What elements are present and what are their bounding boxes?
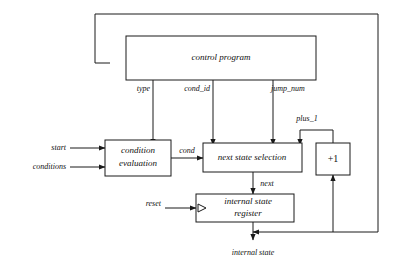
- label-start: start: [51, 143, 66, 152]
- diagram-root: control program condition evaluation nex…: [0, 0, 394, 266]
- label-internal-state: internal state: [232, 248, 275, 257]
- label-type: type: [137, 84, 151, 93]
- label-next: next: [260, 179, 274, 188]
- label-next-state-selection: next state selection: [218, 152, 287, 162]
- label-condition-evaluation-line1: condition: [121, 145, 155, 155]
- label-plus1: plus_1: [295, 114, 317, 123]
- label-internal-state-register-line1: internal state: [224, 196, 272, 206]
- label-jump-num: jump_num: [270, 84, 305, 93]
- label-incrementer: +1: [328, 153, 339, 164]
- label-condition-evaluation-line2: evaluation: [119, 158, 157, 168]
- label-cond-id: cond_id: [184, 84, 211, 93]
- label-cond: cond: [179, 146, 196, 155]
- label-control-program: control program: [191, 52, 251, 62]
- label-conditions: conditions: [33, 162, 66, 171]
- label-reset: reset: [146, 199, 162, 208]
- label-internal-state-register-line2: register: [234, 208, 262, 218]
- diagram-canvas: control program condition evaluation nex…: [0, 0, 394, 266]
